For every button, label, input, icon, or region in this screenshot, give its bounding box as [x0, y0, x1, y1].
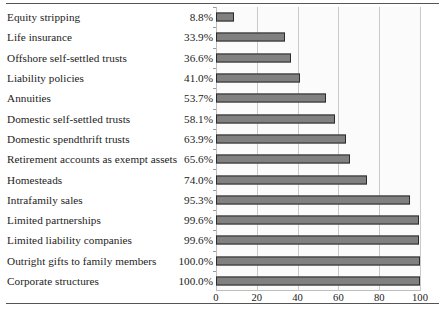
value-label: 100.0%	[120, 255, 213, 267]
chart-row: Homesteads74.0%	[0, 169, 445, 189]
value-label: 99.6%	[120, 234, 213, 246]
chart-row: Limited partnerships99.6%	[0, 210, 445, 230]
category-label: Liability policies	[7, 72, 84, 84]
chart-row: Domestic spendthrift trusts63.9%	[0, 129, 445, 149]
chart-rows: Equity stripping8.8%Life insurance33.9%O…	[0, 7, 445, 291]
chart-row: Annuities53.7%	[0, 88, 445, 108]
chart-row: Offshore self-settled trusts36.6%	[0, 48, 445, 68]
bar	[216, 53, 291, 62]
x-tick-label: 0	[213, 292, 218, 304]
value-label: 100.0%	[120, 275, 213, 287]
value-label: 74.0%	[120, 173, 213, 185]
bar	[216, 74, 300, 83]
chart-row: Equity stripping8.8%	[0, 7, 445, 27]
x-tick-label: 60	[333, 292, 344, 304]
bar	[216, 216, 419, 225]
bottom-rule	[6, 303, 439, 304]
bar-track	[216, 129, 420, 149]
chart-row: Corporate structures100.0%	[0, 271, 445, 291]
bar-chart-figure: Equity stripping8.8%Life insurance33.9%O…	[0, 0, 445, 314]
chart-row: Liability policies41.0%	[0, 68, 445, 88]
bar-track	[216, 251, 420, 271]
category-label: Domestic spendthrift trusts	[7, 133, 130, 145]
value-label: 65.6%	[120, 153, 213, 165]
value-label: 36.6%	[120, 52, 213, 64]
bar	[216, 134, 346, 143]
bar	[216, 195, 410, 204]
top-rule	[6, 3, 439, 4]
bar-track	[216, 210, 420, 230]
chart-row: Domestic self-settled trusts58.1%	[0, 108, 445, 128]
chart-row: Outright gifts to family members100.0%	[0, 251, 445, 271]
bar	[216, 256, 420, 265]
bar-track	[216, 108, 420, 128]
bar-track	[216, 230, 420, 250]
x-tick-label: 100	[412, 292, 428, 304]
value-label: 58.1%	[120, 112, 213, 124]
bar	[216, 13, 234, 22]
value-label: 99.6%	[120, 214, 213, 226]
x-tick-label: 40	[292, 292, 303, 304]
x-tick-label: 80	[374, 292, 385, 304]
category-label: Limited partnerships	[7, 214, 101, 226]
x-tick-label: 20	[252, 292, 263, 304]
value-label: 33.9%	[120, 31, 213, 43]
category-label: Homesteads	[7, 173, 62, 185]
value-label: 63.9%	[120, 133, 213, 145]
chart-row: Limited liability companies99.6%	[0, 230, 445, 250]
bar	[216, 236, 419, 245]
value-label: 53.7%	[120, 92, 213, 104]
category-label: Domestic self-settled trusts	[7, 112, 130, 124]
value-label: 95.3%	[120, 194, 213, 206]
category-label: Corporate structures	[7, 275, 99, 287]
category-label: Offshore self-settled trusts	[7, 52, 127, 64]
bar-track	[216, 68, 420, 88]
category-label: Life insurance	[7, 31, 72, 43]
chart-row: Intrafamily sales95.3%	[0, 190, 445, 210]
bar-track	[216, 88, 420, 108]
bar-track	[216, 149, 420, 169]
bar	[216, 277, 420, 286]
category-label: Intrafamily sales	[7, 194, 83, 206]
bar	[216, 33, 285, 42]
bar	[216, 155, 350, 164]
bar-track	[216, 48, 420, 68]
bar-track	[216, 271, 420, 291]
chart-row: Retirement accounts as exempt assets65.6…	[0, 149, 445, 169]
bar-track	[216, 27, 420, 47]
category-label: Equity stripping	[7, 11, 80, 23]
bar-track	[216, 7, 420, 27]
bar	[216, 175, 367, 184]
value-label: 8.8%	[120, 11, 213, 23]
bar-track	[216, 190, 420, 210]
bar	[216, 94, 326, 103]
value-label: 41.0%	[120, 72, 213, 84]
category-label: Annuities	[7, 92, 51, 104]
chart-row: Life insurance33.9%	[0, 27, 445, 47]
category-label: Limited liability companies	[7, 234, 132, 246]
bar-track	[216, 169, 420, 189]
bar	[216, 114, 335, 123]
